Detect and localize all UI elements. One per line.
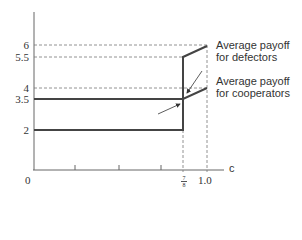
x-tick-label-7-8: 7 8 bbox=[180, 175, 188, 188]
x-axis-label: c bbox=[229, 163, 235, 174]
origin-label: 0 bbox=[25, 175, 31, 186]
legend-cooperators-line2: for cooperators bbox=[216, 87, 290, 99]
legend-defectors: Average payoff for defectors bbox=[216, 39, 290, 63]
y-tick-label-5.5: 5.5 bbox=[5, 52, 29, 63]
frac-denominator: 8 bbox=[180, 182, 188, 188]
arrow-defectors bbox=[187, 71, 202, 93]
y-tick-label-3.5: 3.5 bbox=[5, 94, 29, 105]
cooperators-line bbox=[34, 88, 207, 99]
x-tick-label-1: 1.0 bbox=[198, 175, 212, 186]
arrow-cooperators bbox=[158, 104, 180, 114]
legend-defectors-line2: for defectors bbox=[216, 51, 290, 63]
y-tick-label-2: 2 bbox=[5, 125, 29, 136]
legend-cooperators-line1: Average payoff bbox=[216, 75, 290, 87]
legend-cooperators: Average payoff for cooperators bbox=[216, 75, 290, 99]
legend-defectors-line1: Average payoff bbox=[216, 39, 290, 51]
y-tick-label-6: 6 bbox=[5, 40, 29, 51]
